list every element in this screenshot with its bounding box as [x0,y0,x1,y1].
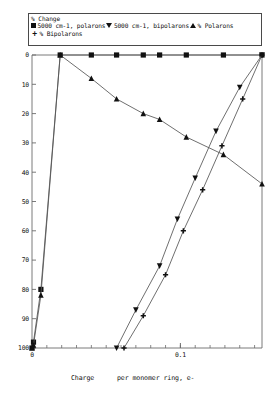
filled-square-marker [114,52,119,57]
filled-triangle-down-marker [157,263,163,269]
filled-triangle-down-marker [133,307,139,313]
filled-triangle-down-marker [175,216,181,222]
filled-square-marker [157,52,162,57]
series-line [32,55,262,348]
y-tick-label: 80 [22,286,30,294]
y-tick-label: 90 [22,315,30,323]
plus-marker [181,228,186,233]
y-tick-label: 40 [22,169,30,177]
filled-triangle-up-marker [38,292,44,298]
x-tick-label: 0 [30,351,34,359]
y-tick-label: 10 [22,81,30,89]
data-series-group [29,52,265,351]
filled-triangle-up-marker [89,75,95,81]
y-tick-label: 20 [22,110,30,118]
filled-square-marker [141,52,146,57]
filled-triangle-up-marker [114,96,120,102]
x-axis-title-left: Charge [71,374,94,382]
filled-triangle-down-marker [213,129,219,135]
series-filled-triangle-up [29,52,265,351]
chart-plot-area: 1009080706050403020100 00.1 [0,0,271,402]
filled-triangle-down-marker [192,175,198,181]
filled-triangle-up-marker [140,111,146,117]
plus-marker [121,345,126,350]
plus-marker [200,187,205,192]
series-line [32,55,262,348]
filled-triangle-up-marker [184,134,190,140]
y-axis-ticks [32,55,36,348]
x-tick-label: 0.1 [175,351,186,359]
y-axis-tick-labels: 1009080706050403020100 [18,51,29,352]
plot-frame [32,55,262,348]
y-tick-label: 50 [22,198,30,206]
y-tick-label: 30 [22,139,30,147]
x-axis-tick-labels: 00.1 [30,351,186,359]
chart-page: % Change 5000 cm-1, polarons 5000 cm-1, … [0,0,271,402]
filled-triangle-up-marker [221,152,227,158]
plus-marker [240,96,245,101]
x-axis-ticks [32,343,255,348]
plus-marker [141,313,146,318]
filled-triangle-up-marker [157,116,163,122]
filled-triangle-up-marker [259,181,265,187]
filled-square-marker [89,52,94,57]
filled-triangle-down-marker [237,85,243,91]
y-tick-label: 70 [22,256,30,264]
plus-marker [219,143,224,148]
y-tick-label: 0 [25,51,29,59]
y-tick-label: 100 [18,344,29,352]
series-plus [121,52,264,350]
y-tick-label: 60 [22,227,30,235]
filled-square-marker [221,52,226,57]
x-axis-title-right: per monomer ring, e- [117,374,194,382]
filled-square-marker [184,52,189,57]
series-filled-square [29,52,264,350]
plus-marker [163,272,168,277]
